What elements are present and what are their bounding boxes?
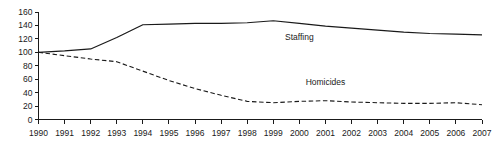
series-inline-label-group: StaffingHomicides <box>285 32 345 86</box>
x-tick-label: 2005 <box>420 128 439 138</box>
x-tick-label-group: 1990199119921993199419951996199719981999… <box>29 128 492 138</box>
x-tick-label: 2006 <box>446 128 465 138</box>
y-tick-label-group: 020406080100120140160 <box>18 7 32 125</box>
y-tick-label: 100 <box>18 47 32 57</box>
series-label-homicides: Homicides <box>306 77 346 87</box>
x-tick-label: 2002 <box>342 128 361 138</box>
series-line-homicides <box>39 52 483 104</box>
x-tick-label: 2007 <box>473 128 492 138</box>
x-tick-label: 2003 <box>368 128 387 138</box>
x-tick-label: 1991 <box>55 128 74 138</box>
x-axis: 1990199119921993199419951996199719981999… <box>29 120 492 138</box>
x-tick-label: 1993 <box>107 128 126 138</box>
x-tick-label: 1990 <box>29 128 48 138</box>
y-tick-label: 20 <box>23 101 33 111</box>
chart-plot-area: 020406080100120140160 199019911992199319… <box>0 0 498 146</box>
x-tick-label: 1997 <box>212 128 231 138</box>
x-tick-label: 1995 <box>159 128 178 138</box>
y-tick-label: 120 <box>18 34 32 44</box>
y-tick-label: 60 <box>23 74 33 84</box>
line-chart: 020406080100120140160 199019911992199319… <box>0 0 498 146</box>
y-tick-label: 140 <box>18 20 32 30</box>
x-tick-label: 2004 <box>394 128 413 138</box>
y-axis: 020406080100120140160 <box>18 7 38 125</box>
y-tick-label: 40 <box>23 88 33 98</box>
x-tick-group <box>39 120 483 124</box>
x-tick-label: 1996 <box>186 128 205 138</box>
x-tick-label: 1992 <box>81 128 100 138</box>
series-label-staffing: Staffing <box>285 32 314 42</box>
x-tick-label: 1998 <box>238 128 257 138</box>
x-tick-label: 2000 <box>290 128 309 138</box>
x-tick-label: 2001 <box>316 128 335 138</box>
series-group <box>39 21 483 105</box>
x-tick-label: 1994 <box>133 128 152 138</box>
y-tick-label: 80 <box>23 61 33 71</box>
y-tick-group <box>35 12 39 120</box>
y-tick-label: 0 <box>28 115 33 125</box>
series-line-staffing <box>39 21 483 53</box>
y-tick-label: 160 <box>18 7 32 17</box>
x-tick-label: 1999 <box>264 128 283 138</box>
